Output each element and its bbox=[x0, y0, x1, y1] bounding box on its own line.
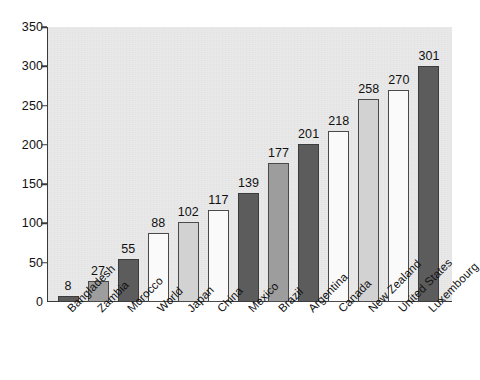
bar-group: 88 bbox=[148, 27, 169, 302]
bar-value-label: 55 bbox=[121, 242, 135, 256]
bar-group: 8 bbox=[58, 27, 79, 302]
bar-group: 102 bbox=[178, 27, 199, 302]
bar-group: 218 bbox=[328, 27, 349, 302]
bar[interactable] bbox=[298, 144, 319, 302]
y-axis-tick-label: 350 bbox=[22, 20, 43, 34]
y-axis-tick-mark bbox=[41, 26, 47, 28]
y-axis-tick-label: 200 bbox=[22, 138, 43, 152]
bar-value-label: 177 bbox=[268, 146, 289, 160]
bar-value-label: 117 bbox=[208, 193, 228, 207]
bar[interactable] bbox=[358, 99, 379, 302]
bar-value-label: 139 bbox=[238, 176, 259, 190]
bar-value-label: 218 bbox=[328, 114, 349, 128]
bar-group: 55 bbox=[118, 27, 139, 302]
bar-group: 117 bbox=[208, 27, 229, 302]
y-axis-tick-label: 250 bbox=[22, 99, 43, 113]
bar-value-label: 88 bbox=[151, 216, 165, 230]
y-axis-tick-mark bbox=[41, 223, 47, 225]
bar-value-label: 102 bbox=[178, 205, 199, 219]
bar-value-label: 201 bbox=[298, 127, 319, 141]
y-axis-tick-label: 0 bbox=[36, 295, 43, 309]
bar-group: 258 bbox=[358, 27, 379, 302]
y-axis-tick-mark bbox=[41, 183, 47, 185]
bar-group: 27 bbox=[88, 27, 109, 302]
bar-group: 177 bbox=[268, 27, 289, 302]
y-axis-tick-label: 150 bbox=[22, 177, 43, 191]
bar-value-label: 270 bbox=[388, 73, 409, 87]
bar-group: 270 bbox=[388, 27, 409, 302]
bar[interactable] bbox=[238, 193, 259, 302]
y-axis-tick-mark bbox=[41, 105, 47, 107]
bar-group: 139 bbox=[238, 27, 259, 302]
y-axis-tick-mark bbox=[41, 262, 47, 264]
y-axis-tick-mark bbox=[41, 66, 47, 68]
bar-value-label: 258 bbox=[358, 82, 379, 96]
y-axis-tick-mark bbox=[41, 144, 47, 146]
y-axis-tick-label: 300 bbox=[22, 59, 43, 73]
bar-value-label: 8 bbox=[65, 279, 72, 293]
y-axis-tick-label: 100 bbox=[22, 216, 43, 230]
bar-group: 301 bbox=[418, 27, 439, 302]
bar-value-label: 301 bbox=[418, 49, 439, 63]
bar-group: 201 bbox=[298, 27, 319, 302]
